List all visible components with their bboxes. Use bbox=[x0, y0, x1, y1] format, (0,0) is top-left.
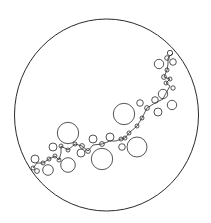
chain-circle bbox=[31, 155, 39, 163]
chain-circle bbox=[154, 108, 162, 116]
circle-chain-diagram bbox=[0, 0, 211, 223]
chain-circle bbox=[165, 56, 170, 61]
chain-circle bbox=[61, 158, 76, 173]
chain-circle bbox=[119, 144, 126, 151]
chain-circle bbox=[171, 86, 175, 90]
chain-circle bbox=[167, 100, 176, 109]
chain-circle bbox=[91, 148, 112, 169]
chain-circle bbox=[89, 135, 97, 143]
chain-circle bbox=[106, 133, 114, 141]
chain-circle bbox=[170, 59, 177, 66]
chain-circle bbox=[43, 165, 54, 176]
chain-circle bbox=[57, 122, 78, 143]
chain-circle bbox=[127, 137, 147, 157]
chain-circle bbox=[113, 103, 134, 124]
chain-circle bbox=[152, 97, 159, 104]
chain-circles-group bbox=[31, 50, 177, 175]
chain-circle bbox=[167, 50, 172, 55]
chain-circle bbox=[154, 59, 163, 68]
chain-circle bbox=[137, 100, 144, 107]
chain-circle bbox=[77, 149, 85, 157]
outer-boundary-circle bbox=[15, 19, 199, 211]
chain-circle bbox=[35, 169, 40, 174]
chain-circle bbox=[158, 89, 167, 98]
chain-circle bbox=[49, 143, 57, 151]
